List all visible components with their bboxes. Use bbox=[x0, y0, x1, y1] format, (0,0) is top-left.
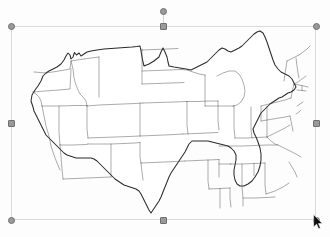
handle-middle-right[interactable] bbox=[313, 120, 320, 127]
us-national-outline bbox=[31, 31, 296, 213]
us-map-svg bbox=[11, 26, 316, 220]
editor-canvas[interactable] bbox=[0, 0, 330, 237]
handle-bottom-right[interactable] bbox=[313, 217, 320, 224]
handle-bottom-left[interactable] bbox=[8, 217, 15, 224]
handle-top-left[interactable] bbox=[8, 23, 15, 30]
us-map-image[interactable] bbox=[11, 26, 316, 220]
rotate-handle[interactable] bbox=[160, 8, 167, 15]
handle-bottom-center[interactable] bbox=[160, 217, 167, 224]
handle-top-right[interactable] bbox=[313, 23, 320, 30]
handle-top-center[interactable] bbox=[160, 23, 167, 30]
handle-middle-left[interactable] bbox=[8, 120, 15, 127]
